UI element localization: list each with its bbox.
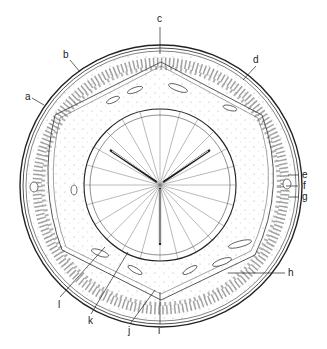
- label-i: i: [158, 326, 160, 336]
- label-j: j: [128, 326, 130, 336]
- cross-section-diagram: [0, 0, 327, 349]
- label-h: h: [288, 268, 294, 278]
- central-disc: [84, 109, 236, 261]
- label-b: b: [63, 50, 69, 60]
- label-c: c: [157, 14, 162, 24]
- label-l: l: [58, 300, 60, 310]
- label-e: e: [302, 170, 308, 180]
- label-g: g: [302, 192, 308, 202]
- label-k: k: [88, 316, 93, 326]
- label-d: d: [253, 55, 259, 65]
- label-f: f: [303, 181, 306, 191]
- label-a: a: [25, 92, 31, 102]
